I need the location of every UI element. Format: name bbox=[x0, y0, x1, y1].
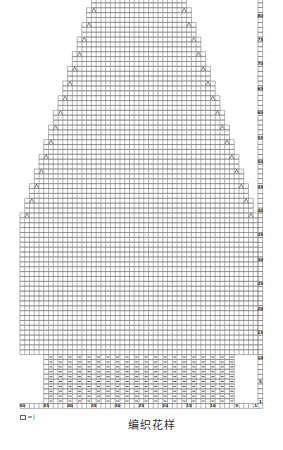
chart-row bbox=[63, 86, 215, 91]
decrease-icon bbox=[239, 184, 243, 188]
column-number-label: 15 bbox=[186, 403, 192, 408]
row-number-cell bbox=[258, 242, 263, 247]
chart-row bbox=[20, 213, 258, 218]
chart-row bbox=[87, 8, 192, 13]
row-number-cell bbox=[258, 247, 263, 252]
chart-row bbox=[20, 218, 258, 223]
row-number-cell bbox=[258, 76, 263, 81]
chart-row bbox=[49, 130, 230, 135]
row-number-label: 40 bbox=[258, 208, 264, 213]
row-number-cell bbox=[258, 262, 263, 267]
row-number-cell bbox=[258, 71, 263, 76]
row-number-cell bbox=[258, 311, 263, 316]
decrease-icon bbox=[235, 170, 239, 174]
decrease-icon bbox=[182, 8, 186, 12]
decrease-icon bbox=[230, 155, 234, 159]
row-number-label: 25 bbox=[258, 281, 264, 286]
column-number-label: 10 bbox=[210, 403, 216, 408]
column-number-label: 1 bbox=[254, 403, 257, 408]
chart-row bbox=[20, 335, 258, 340]
chart-row bbox=[34, 174, 243, 179]
row-number-label: 50 bbox=[258, 159, 264, 164]
chart-row bbox=[82, 22, 196, 27]
chart-row bbox=[53, 115, 224, 120]
chart-numbers: 1510152025303540455055606570758050454035… bbox=[20, 13, 264, 409]
row-number-label: 65 bbox=[258, 86, 264, 91]
column-number-label: 50 bbox=[20, 403, 26, 408]
chart-row bbox=[72, 61, 205, 66]
chart-row bbox=[20, 311, 258, 316]
chart-row bbox=[91, 0, 186, 3]
chart-row bbox=[20, 252, 258, 257]
chart-row bbox=[20, 262, 258, 267]
row-number-label: 1 bbox=[259, 399, 262, 404]
chart-caption: 编织花样 bbox=[107, 419, 197, 433]
chart-row bbox=[20, 267, 258, 272]
row-number-cell bbox=[258, 198, 263, 203]
decrease-icon bbox=[220, 126, 224, 130]
decrease-icon bbox=[73, 67, 77, 71]
decrease-icon bbox=[87, 23, 91, 27]
chart-row bbox=[20, 286, 258, 291]
chart-row bbox=[25, 203, 253, 208]
chart-row bbox=[77, 37, 201, 42]
column-number-label: 40 bbox=[67, 403, 73, 408]
chart-row bbox=[63, 91, 215, 96]
row-number-cell bbox=[258, 320, 263, 325]
decrease-icon bbox=[35, 184, 39, 188]
decrease-icon bbox=[225, 140, 229, 144]
row-number-label: 35 bbox=[258, 232, 264, 237]
chart-row bbox=[20, 296, 258, 301]
column-number-label: 25 bbox=[139, 403, 145, 408]
chart-row bbox=[49, 135, 230, 140]
chart-row bbox=[20, 272, 258, 277]
row-number-cell bbox=[258, 145, 263, 150]
chart-row bbox=[68, 66, 211, 71]
legend: = | bbox=[20, 413, 35, 421]
row-number-cell bbox=[258, 120, 263, 125]
row-number-cell bbox=[258, 316, 263, 321]
decrease-icon bbox=[187, 23, 191, 27]
decrease-icon bbox=[30, 199, 34, 203]
decrease-icon bbox=[49, 140, 53, 144]
row-number-label: 45 bbox=[258, 184, 264, 189]
chart-row bbox=[20, 320, 258, 325]
row-number-cell bbox=[258, 42, 263, 47]
decrease-icon bbox=[192, 38, 196, 42]
chart-row bbox=[91, 3, 186, 8]
decrease-icon bbox=[39, 170, 43, 174]
row-number-label: 15 bbox=[258, 330, 264, 335]
row-number-cell bbox=[258, 296, 263, 301]
chart-row bbox=[44, 369, 234, 374]
row-number-label: 20 bbox=[258, 306, 264, 311]
chart-row bbox=[20, 257, 258, 262]
row-number-label: 55 bbox=[258, 135, 264, 140]
chart-row bbox=[30, 184, 249, 189]
chart-row bbox=[20, 237, 258, 242]
row-number-cell bbox=[258, 369, 263, 374]
row-number-cell bbox=[258, 96, 263, 101]
chart-row bbox=[39, 154, 239, 159]
chart-row bbox=[39, 159, 239, 164]
decrease-icon bbox=[44, 155, 48, 159]
chart-row bbox=[20, 223, 258, 228]
row-number-cell bbox=[258, 125, 263, 130]
row-number-cell bbox=[258, 0, 263, 3]
chart-row bbox=[34, 179, 243, 184]
decrease-icon bbox=[216, 111, 220, 115]
row-number-cell bbox=[258, 286, 263, 291]
chart-row bbox=[44, 145, 234, 150]
row-number-cell bbox=[258, 340, 263, 345]
chart-row bbox=[44, 384, 234, 389]
row-number-cell bbox=[258, 267, 263, 272]
chart-row bbox=[20, 316, 258, 321]
row-number-cell bbox=[258, 360, 263, 365]
row-number-cell bbox=[258, 237, 263, 242]
chart-row bbox=[82, 27, 196, 32]
chart-row bbox=[58, 96, 220, 101]
column-number-label: 45 bbox=[43, 403, 49, 408]
row-number-cell bbox=[258, 115, 263, 120]
chart-row bbox=[44, 389, 234, 394]
row-number-cell bbox=[258, 140, 263, 145]
chart-row bbox=[20, 232, 258, 237]
